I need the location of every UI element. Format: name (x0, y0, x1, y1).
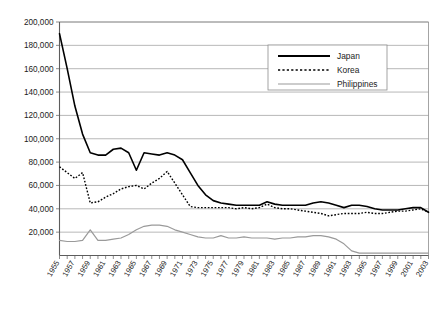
y-axis-label-160000: 160,000 (24, 65, 54, 74)
y-axis-label-200000: 200,000 (24, 18, 54, 27)
y-axis-label-80000: 80,000 (28, 158, 53, 167)
chart-legend: JapanKoreaPhilippines (268, 45, 387, 90)
y-axis-label-20000: 20,000 (28, 228, 53, 237)
legend-label-korea: Korea (337, 65, 360, 75)
line-chart: 1955195719591961196319651967196919711973… (0, 0, 443, 309)
y-axis-label-100000: 100,000 (24, 135, 54, 144)
chart-canvas: 1955195719591961196319651967196919711973… (0, 0, 443, 309)
legend-label-philippines: Philippines (337, 79, 378, 89)
legend-label-japan: Japan (337, 51, 360, 61)
y-axis-label-140000: 140,000 (24, 88, 54, 97)
y-axis-label-40000: 40,000 (28, 205, 53, 214)
y-axis-label-180000: 180,000 (24, 41, 54, 50)
y-axis-label-60000: 60,000 (28, 181, 53, 190)
y-axis-label-120000: 120,000 (24, 111, 54, 120)
